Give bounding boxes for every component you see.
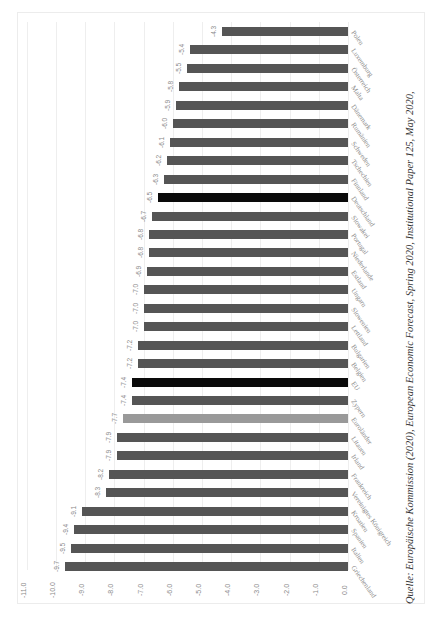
value-label: -5.8	[167, 78, 177, 94]
bar-finnland	[164, 175, 348, 184]
value-label: -8.3	[94, 484, 104, 500]
value-label: -6.7	[140, 208, 150, 224]
bar-ungarn	[144, 285, 348, 294]
bar-zypern	[132, 396, 348, 405]
value-label: -5.5	[175, 60, 185, 76]
bar-luxemburg	[190, 45, 348, 54]
bar-portugal	[149, 230, 348, 239]
bar-schweden	[170, 138, 348, 147]
bar-polen	[222, 27, 348, 36]
bar-estland	[147, 267, 348, 276]
bar-italien	[71, 544, 348, 553]
value-label: -7.4	[120, 374, 130, 390]
bar-spanien	[74, 525, 348, 534]
value-label: -7.7	[111, 410, 121, 426]
value-label: -7.2	[126, 355, 136, 371]
x-tick-label: -2.0	[283, 578, 297, 602]
value-label: -8.2	[97, 466, 107, 482]
value-label: -4.3	[210, 23, 220, 39]
value-label: -7.4	[120, 392, 130, 408]
value-label: -7.0	[132, 281, 142, 297]
gridline	[348, 22, 349, 570]
bar-slowakei	[152, 212, 348, 221]
x-tick-label: -1.0	[312, 578, 326, 602]
bar-griechenland	[65, 562, 348, 571]
bar-dänemark	[176, 101, 348, 110]
x-tick-label: 0.0	[341, 578, 355, 602]
x-tick-label: -6.0	[166, 578, 180, 602]
value-label: -7.2	[126, 337, 136, 353]
gridline	[56, 22, 57, 570]
bar-irland	[117, 451, 348, 460]
x-tick-label: -11.0	[20, 578, 34, 602]
x-tick-label: -8.0	[107, 578, 121, 602]
value-label: -7.0	[132, 300, 142, 316]
bar-bulgarien	[138, 341, 348, 350]
value-label: -5.9	[164, 97, 174, 113]
bar-euroländer	[123, 414, 348, 423]
gridline	[85, 22, 86, 570]
bar-frankreich	[109, 470, 348, 479]
x-tick-label: -7.0	[137, 578, 151, 602]
x-tick-label: -4.0	[224, 578, 238, 602]
bar-vereinigtes-königreich	[106, 488, 348, 497]
value-label: -6.3	[152, 171, 162, 187]
value-label: -6.0	[161, 115, 171, 131]
gridline	[27, 22, 28, 570]
source-caption: Quelle: Europäische Kommission (2020), E…	[404, 14, 434, 604]
value-label: -6.5	[146, 189, 156, 205]
value-label: -9.5	[59, 540, 69, 556]
value-label: -9.7	[53, 558, 63, 574]
value-label: -6.2	[155, 152, 165, 168]
value-label: -5.4	[178, 41, 188, 57]
x-tick-label: -9.0	[78, 578, 92, 602]
value-label: -7.0	[132, 318, 142, 334]
bar-niederlande	[149, 248, 348, 257]
bar-litauen	[117, 433, 348, 442]
value-label: -7.9	[105, 447, 115, 463]
bar-eu	[132, 378, 348, 387]
bar-kroatien	[82, 507, 348, 516]
value-label: -6.1	[158, 134, 168, 150]
x-tick-label: -5.0	[195, 578, 209, 602]
bar-lettland	[144, 322, 348, 331]
value-label: -9.1	[70, 503, 80, 519]
value-label: -9.4	[62, 521, 72, 537]
bar-deutschland	[158, 193, 348, 202]
x-tick-label: -10.0	[49, 578, 63, 602]
bar-tschechien	[167, 156, 348, 165]
bar-slowenien	[144, 304, 348, 313]
value-label: -6.8	[137, 244, 147, 260]
bar-rumänien	[173, 119, 348, 128]
bar-österreich	[187, 64, 348, 73]
x-tick-label: -3.0	[253, 578, 267, 602]
value-label: -6.9	[135, 263, 145, 279]
value-label: -6.8	[137, 226, 147, 242]
bar-belgien	[138, 359, 348, 368]
bar-malta	[179, 82, 348, 91]
value-label: -7.9	[105, 429, 115, 445]
